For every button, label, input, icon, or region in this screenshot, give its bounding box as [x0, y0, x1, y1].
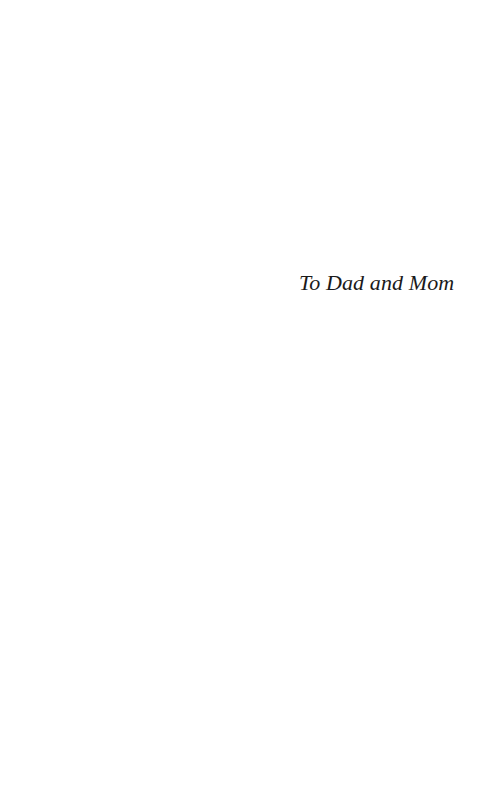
dedication-page: To Dad and Mom: [0, 0, 499, 790]
dedication-text: To Dad and Mom: [299, 268, 454, 298]
